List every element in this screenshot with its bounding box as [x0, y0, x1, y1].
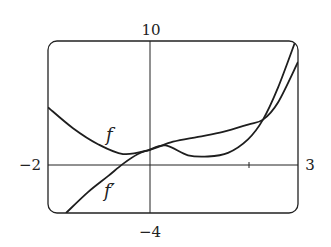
curve-f-prime-label: f′	[102, 180, 115, 201]
viewing-window-frame	[48, 41, 298, 213]
function-graph: 10 −4 −2 3 f f′	[0, 0, 331, 247]
x-min-label: −2	[19, 156, 41, 174]
curve-f-prime	[66, 41, 296, 213]
curve-f-label: f	[104, 124, 116, 145]
y-min-label: −4	[139, 223, 161, 241]
y-max-label: 10	[141, 21, 160, 39]
x-max-label: 3	[305, 156, 315, 174]
curve-f	[48, 62, 298, 154]
